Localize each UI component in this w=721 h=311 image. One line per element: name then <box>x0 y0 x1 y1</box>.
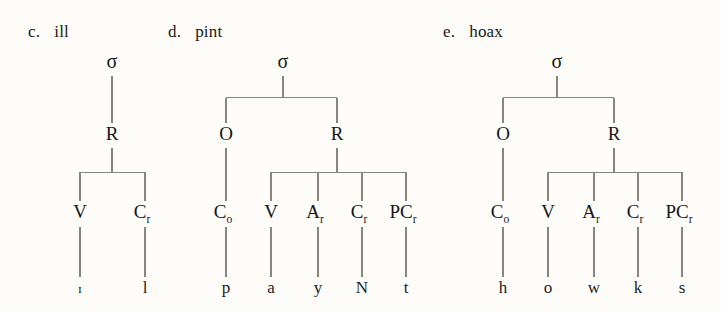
node-constituent-hoax-0: Co <box>491 201 510 225</box>
terminal-segment-hoax-4: s <box>679 278 686 297</box>
node-constituent-hoax-0-subscript: o <box>503 213 509 225</box>
node-r-hoax: R <box>608 123 621 144</box>
node-constituent-hoax-3-subscript: r <box>639 213 643 225</box>
syllable-structure-figure: c.illσRVɪCrld.pintσORCopVaAryCrNPCrte.ho… <box>0 0 721 311</box>
node-sigma-hoax: σ <box>552 50 563 72</box>
terminal-segment-hoax-3: k <box>634 278 643 297</box>
terminal-segment-hoax-0: h <box>499 278 508 297</box>
node-constituent-hoax-4: PCr <box>665 201 692 225</box>
terminal-segment-hoax-2: w <box>588 278 601 297</box>
node-constituent-hoax-1: V <box>541 201 555 222</box>
node-o-hoax: O <box>496 123 510 144</box>
terminal-segment-hoax-1: o <box>544 278 553 297</box>
node-constituent-hoax-2-subscript: r <box>596 213 600 225</box>
node-constituent-hoax-3: Cr <box>627 201 644 225</box>
tree-graph-hoax: σORCohVoArwCrkPCrs <box>0 0 721 311</box>
node-constituent-hoax-2: Ar <box>582 201 600 225</box>
node-constituent-hoax-4-subscript: r <box>689 213 693 225</box>
